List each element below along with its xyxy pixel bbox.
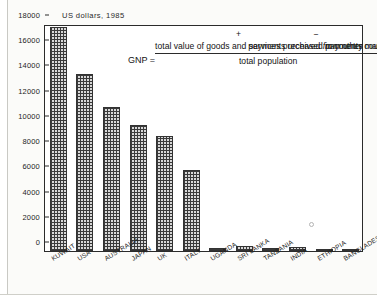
formula-operator-plus: + xyxy=(229,29,248,52)
y-axis-tick-label: 4000 xyxy=(23,187,46,196)
page-background: US dollars, 1985 02000400060008000100001… xyxy=(0,0,377,300)
gnp-formula: GNP = total value of goods and services … xyxy=(128,29,360,67)
formula-fraction: total value of goods and services purcha… xyxy=(155,29,377,67)
scan-edge-bottom xyxy=(0,294,377,300)
y-axis-tick-label: 8000 xyxy=(23,137,46,146)
formula-operator-minus: − xyxy=(306,29,325,52)
y-axis-tick-label: 6000 xyxy=(23,162,46,171)
y-axis-tick-label: 12000 xyxy=(18,86,45,95)
bar xyxy=(50,27,67,251)
y-axis-tick-label: 2000 xyxy=(23,212,46,221)
formula-numerator: total value of goods and services purcha… xyxy=(155,29,377,53)
formula-term-2: payments received from other countries xyxy=(248,41,306,52)
bar xyxy=(156,136,173,251)
y-axis-tick-label: 14000 xyxy=(18,61,45,70)
formula-term-3-line-a: payments made xyxy=(325,41,377,51)
bar xyxy=(76,74,93,251)
y-axis-tick-label: 16000 xyxy=(18,36,45,45)
formula-term-3: payments made to other countries xyxy=(325,41,377,52)
scan-edge-left xyxy=(0,0,8,300)
y-axis-tick-label: 10000 xyxy=(18,111,45,120)
formula-lhs: GNP = xyxy=(128,55,155,67)
scan-speck xyxy=(309,222,314,227)
bar xyxy=(130,125,147,251)
x-axis-tick-label: UK xyxy=(156,251,168,262)
formula-denominator: total population xyxy=(155,54,377,67)
bar xyxy=(183,170,200,251)
formula-term-1: total value of goods and services purcha… xyxy=(155,41,229,52)
bar xyxy=(103,107,120,251)
y-axis-tick-label: 0 xyxy=(36,238,45,247)
y-axis-tick-label: 18000 xyxy=(18,11,45,20)
chart-caption: US dollars, 1985 xyxy=(62,11,125,20)
y-axis-tick-mark xyxy=(45,15,49,16)
